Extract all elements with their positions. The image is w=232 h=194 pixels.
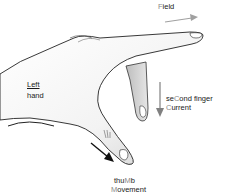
field-arrow (165, 18, 192, 22)
second-finger-label: seCond finger (166, 94, 213, 103)
forefinger-nail (190, 33, 202, 38)
left-label: Left (27, 80, 40, 89)
hand-label: hand (27, 91, 44, 100)
field-label: Field (158, 2, 174, 11)
movement-label: Movement (111, 185, 146, 194)
current-label: Current (166, 103, 191, 112)
thumb-label: thuMb (114, 176, 135, 185)
